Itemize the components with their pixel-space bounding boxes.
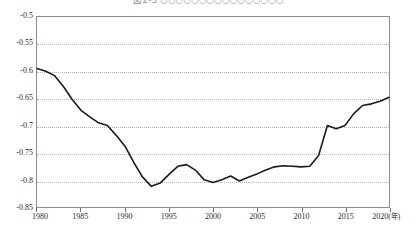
y-axis-labels: -0.5 -0.55 -0.6 -0.65 -0.7 -0.75 -0.8 -0…	[0, 16, 36, 208]
data-series-line	[37, 17, 389, 207]
chart-figure: 図2-3 ○○○○○○○○○○○○○○○○ -0.5 -0.55 -0.6 -0…	[0, 0, 417, 234]
x-tick-label: 1985	[72, 212, 88, 222]
y-tick-label: -0.75	[0, 149, 33, 157]
x-tick-label: 2010	[294, 212, 310, 222]
y-tick-label: -0.6	[0, 67, 33, 75]
x-tick-label: 1980	[32, 212, 48, 222]
plot-area	[36, 16, 390, 208]
x-tick-label: 1995	[161, 212, 177, 222]
x-tick-label: 2015	[338, 212, 354, 222]
x-tick-label: 2000	[205, 212, 221, 222]
y-tick-label: -0.7	[0, 122, 33, 130]
chart-title: 図2-3 ○○○○○○○○○○○○○○○○	[0, 0, 417, 5]
y-tick-label: -0.8	[0, 177, 33, 185]
y-tick-label: -0.55	[0, 39, 33, 47]
y-tick-label: -0.5	[0, 12, 33, 20]
y-tick-label: -0.65	[0, 94, 33, 102]
x-tick-label: 1990	[117, 212, 133, 222]
x-axis-unit: (年)	[388, 212, 400, 221]
y-tick-label: -0.85	[0, 204, 33, 212]
x-tick-label-text: 2020	[372, 212, 388, 221]
x-tick-label: 2005	[249, 212, 265, 222]
x-tick-label: 2020(年)	[372, 212, 400, 222]
